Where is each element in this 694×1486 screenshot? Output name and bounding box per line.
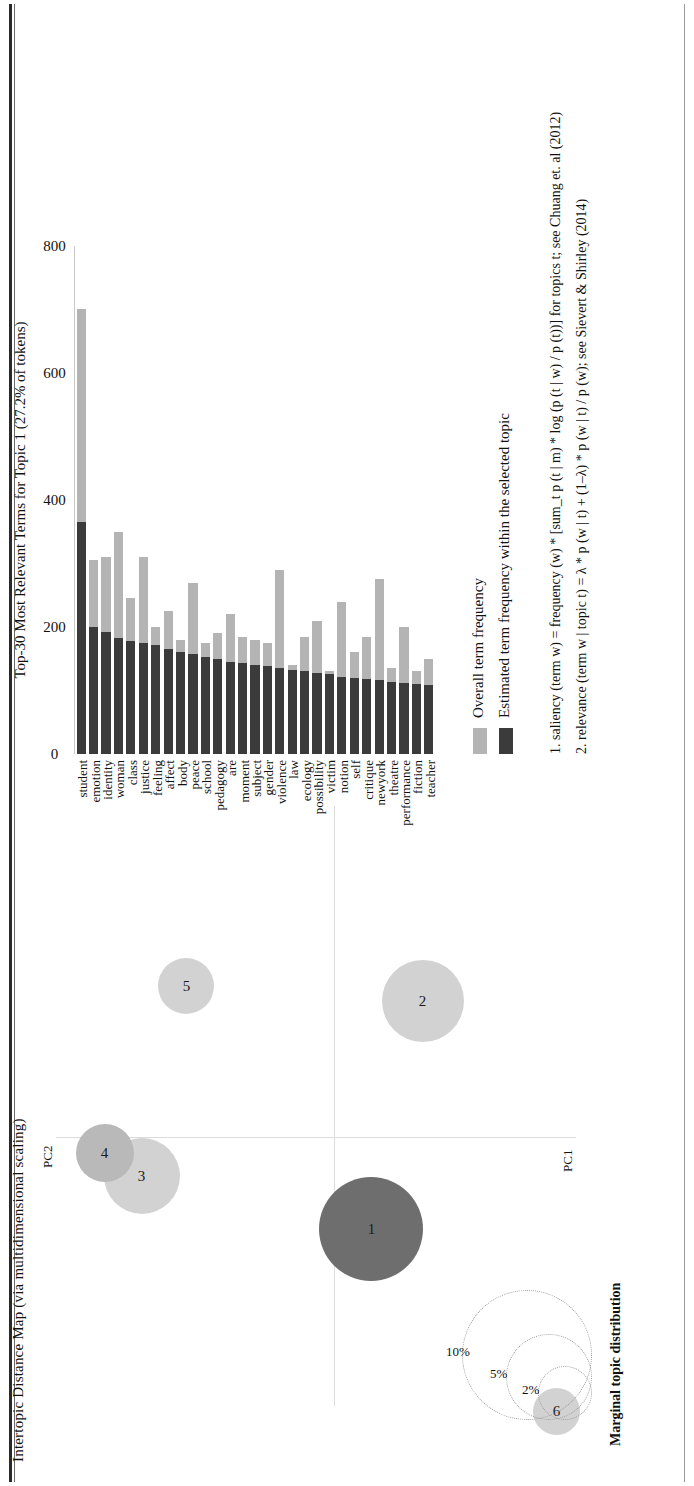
bar-row[interactable] <box>151 246 160 754</box>
marginal-legend-title: Marginal topic distribution <box>608 1283 624 1446</box>
bar-row[interactable] <box>164 246 173 754</box>
bar-topic-frequency <box>312 673 321 754</box>
bar-row[interactable] <box>362 246 371 754</box>
marginal-size-label: 10% <box>446 1344 470 1360</box>
bar-topic-frequency <box>275 668 284 754</box>
bar-row[interactable] <box>375 246 384 754</box>
bar-row[interactable] <box>176 246 185 754</box>
bar-row[interactable] <box>213 246 222 754</box>
bar-topic-frequency <box>412 684 421 754</box>
bar-row[interactable] <box>424 246 433 754</box>
bar-topic-frequency <box>238 663 247 754</box>
bar-topic-frequency <box>151 645 160 754</box>
bar-row[interactable] <box>288 246 297 754</box>
bar-row[interactable] <box>263 246 272 754</box>
intertopic-distance-map: Intertopic Distance Map (via multidimens… <box>4 768 664 1468</box>
bar-topic-frequency <box>77 522 86 754</box>
bar-topic-frequency <box>300 671 309 754</box>
bar-topic-frequency <box>387 682 396 754</box>
bar-topic-frequency <box>164 649 173 754</box>
legend-note: 1. saliency (term w) = frequency (w) * [… <box>548 112 564 754</box>
bar-plot-area: 0200400600800 studentemotionidentitywoma… <box>48 246 452 754</box>
x-tick-600: 600 <box>43 365 66 382</box>
bar-topic-frequency <box>399 683 408 754</box>
marginal-topic-distribution-legend: 2%5%10% Marginal topic distribution <box>412 1146 642 1446</box>
topic-bubble-5[interactable]: 5 <box>158 958 214 1014</box>
bar-topic-frequency <box>226 662 235 754</box>
legend-swatch <box>473 728 487 754</box>
legend-note: 2. relevance (term w | topic t) = λ * p … <box>574 199 590 754</box>
bar-topic-frequency <box>101 632 110 754</box>
bar-series-layer: studentemotionidentitywomanclassjusticef… <box>75 246 435 754</box>
bar-row[interactable] <box>412 246 421 754</box>
bar-topic-frequency <box>375 680 384 754</box>
topic-bubble-label: 4 <box>101 1145 109 1162</box>
bar-topic-frequency <box>188 654 197 754</box>
pc1-axis-line <box>334 806 335 1406</box>
x-tick-0: 0 <box>51 746 59 763</box>
bar-topic-frequency <box>126 641 135 754</box>
legend-label: Estimated term frequency within the sele… <box>496 413 513 718</box>
intertopic-map-title: Intertopic Distance Map (via multidimens… <box>10 1118 27 1462</box>
ldavis-figure: Intertopic Distance Map (via multidimens… <box>0 0 694 1486</box>
bar-row[interactable] <box>337 246 346 754</box>
topic-bubble-label: 1 <box>367 1221 375 1238</box>
bar-row[interactable] <box>312 246 321 754</box>
bar-topic-frequency <box>176 652 185 754</box>
bar-row[interactable] <box>126 246 135 754</box>
topic-bubble-2[interactable]: 2 <box>382 960 464 1042</box>
bar-topic-frequency <box>114 638 123 754</box>
bar-row[interactable] <box>77 246 86 754</box>
topic-bubble-4[interactable]: 4 <box>76 1124 134 1182</box>
pc2-axis-label: PC2 <box>40 1146 56 1168</box>
bar-row[interactable] <box>238 246 247 754</box>
bar-row[interactable] <box>201 246 210 754</box>
bar-row[interactable] <box>325 246 334 754</box>
bar-topic-frequency <box>89 627 98 754</box>
bar-row[interactable] <box>89 246 98 754</box>
bar-topic-frequency <box>139 643 148 754</box>
bar-row[interactable] <box>250 246 259 754</box>
bar-topic-frequency <box>424 685 433 754</box>
x-tick-800: 800 <box>43 238 66 255</box>
bar-row[interactable] <box>387 246 396 754</box>
bar-row[interactable] <box>101 246 110 754</box>
bar-topic-frequency <box>337 677 346 754</box>
bar-row[interactable] <box>300 246 309 754</box>
legend-label: Overall term frequency <box>470 578 487 718</box>
topic-bubble-label: 5 <box>182 978 190 995</box>
chart-legend: Overall term frequencyEstimated term fre… <box>470 14 670 754</box>
term-label[interactable]: teacher <box>423 760 439 850</box>
topic-bubble-1[interactable]: 1 <box>319 1177 423 1281</box>
bar-row[interactable] <box>275 246 284 754</box>
x-tick-400: 400 <box>43 492 66 509</box>
bar-topic-frequency <box>362 679 371 754</box>
bar-topic-frequency <box>325 674 334 754</box>
bar-row[interactable] <box>350 246 359 754</box>
topic-bubble-label: 2 <box>419 993 427 1010</box>
bar-row[interactable] <box>399 246 408 754</box>
marginal-size-ring-10pct <box>462 1290 592 1420</box>
bar-topic-frequency <box>213 659 222 754</box>
bar-row[interactable] <box>188 246 197 754</box>
x-tick-200: 200 <box>43 619 66 636</box>
bar-row[interactable] <box>226 246 235 754</box>
bar-topic-frequency <box>250 665 259 754</box>
bar-row[interactable] <box>114 246 123 754</box>
bar-topic-frequency <box>263 666 272 754</box>
bar-topic-frequency <box>350 678 359 754</box>
legend-swatch <box>499 728 513 754</box>
bar-topic-frequency <box>201 657 210 754</box>
bar-topic-frequency <box>288 670 297 754</box>
bar-row[interactable] <box>139 246 148 754</box>
bar-chart-title: Top-30 Most Relevant Terms for Topic 1 (… <box>12 240 29 760</box>
topic-bubble-label: 3 <box>138 1168 146 1185</box>
